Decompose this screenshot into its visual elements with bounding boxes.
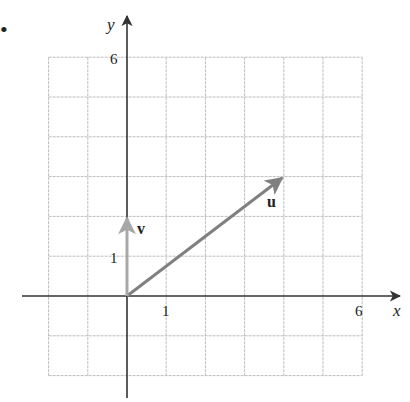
y-axis-label: y [105,15,115,34]
x-tick-1: 1 [162,303,170,319]
y-tick-1: 1 [110,250,118,266]
problem-bullet: • [0,17,8,42]
vector-u-arrow [127,178,282,296]
y-tick-6: 6 [110,51,118,67]
vector-diagram: • x y 1 6 1 6 u v [0,0,410,402]
x-axis-label: x [392,301,401,320]
grid [49,57,363,375]
vector-u-label: u [267,193,276,210]
vector-v-label: v [137,220,145,237]
x-tick-6: 6 [355,303,363,319]
